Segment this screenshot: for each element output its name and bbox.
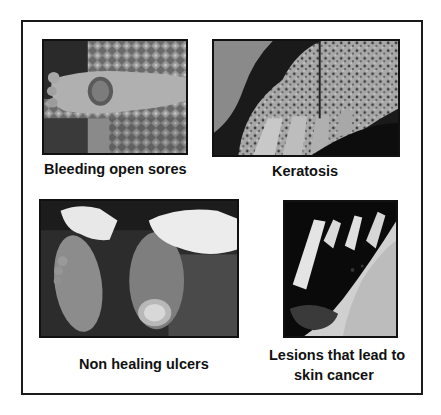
skin-cancer-lesion-photo [283, 200, 398, 338]
foot-ulcers-photo [39, 199, 239, 338]
keratosis-photo [212, 39, 400, 157]
caption-keratosis: Keratosis [272, 162, 338, 181]
caption-lesions-line1: Lesions that lead to [269, 346, 405, 365]
caption-bleeding-open-sores: Bleeding open sores [44, 160, 187, 179]
foot-sore-photo [42, 39, 188, 155]
caption-non-healing-ulcers: Non healing ulcers [79, 355, 209, 374]
caption-lesions-line2: skin cancer [294, 366, 374, 385]
